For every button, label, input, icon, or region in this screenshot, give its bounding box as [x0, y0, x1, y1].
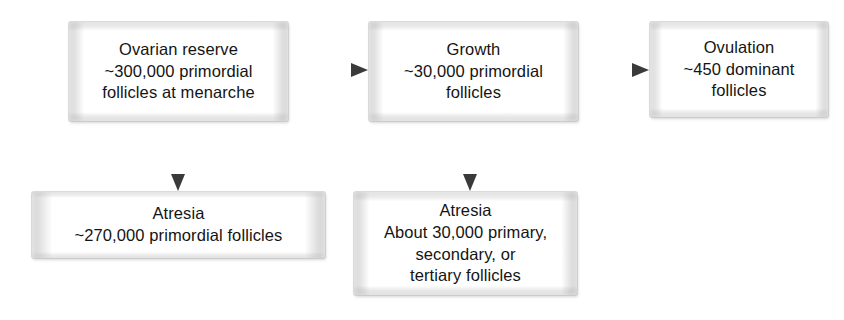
node-growth-label: Growth ~30,000 primordial follicles	[398, 39, 549, 104]
node-atresia-primary-secondary-tertiary-label: Atresia About 30,000 primary, secondary,…	[378, 200, 553, 287]
node-atresia-primordial: Atresia ~270,000 primordial follicles	[32, 192, 325, 258]
node-atresia-primordial-label: Atresia ~270,000 primordial follicles	[69, 203, 289, 247]
node-growth: Growth ~30,000 primordial follicles	[369, 22, 578, 121]
node-atresia-primary-secondary-tertiary: Atresia About 30,000 primary, secondary,…	[354, 192, 577, 295]
node-ovarian-reserve-label: Ovarian reserve ~300,000 primordial foll…	[96, 39, 261, 104]
node-ovulation: Ovulation ~450 dominant follicles	[650, 22, 828, 117]
node-ovarian-reserve: Ovarian reserve ~300,000 primordial foll…	[69, 22, 288, 121]
connector-reserve-to-atresia	[164, 121, 192, 192]
connector-growth-to-atresia	[456, 121, 484, 192]
connector-reserve-to-growth	[289, 56, 369, 84]
diagram-canvas: Ovarian reserve ~300,000 primordial foll…	[0, 0, 844, 320]
connector-growth-to-ovulation	[579, 56, 650, 84]
node-ovulation-label: Ovulation ~450 dominant follicles	[678, 37, 801, 102]
